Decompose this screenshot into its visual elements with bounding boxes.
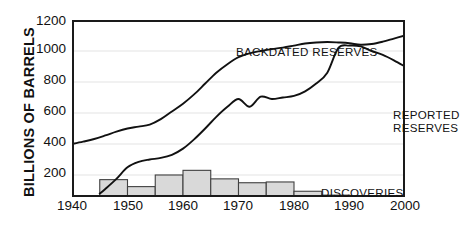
x-tick-1950: 1950 xyxy=(98,199,158,213)
y-tick-400: 400 xyxy=(26,135,66,149)
plot-area: BACKDATED RESERVES REPORTEDRESERVES DISC… xyxy=(72,20,405,197)
y-tick-1000: 1000 xyxy=(26,42,66,56)
x-tick-1990: 1990 xyxy=(319,199,379,213)
y-tick-800: 800 xyxy=(26,73,66,87)
x-axis-tick-labels: 1940 1950 1960 1970 1980 1990 2000 xyxy=(0,199,432,223)
x-tick-2000: 2000 xyxy=(375,199,435,213)
annotation-discoveries: DISCOVERIES xyxy=(321,186,404,199)
annotation-reported-line1: REPORTED xyxy=(393,108,460,121)
annotation-reported-line2: RESERVES xyxy=(393,121,458,134)
annotation-backdated-reserves: BACKDATED RESERVES xyxy=(236,45,378,58)
x-tick-1940: 1940 xyxy=(42,199,102,213)
annotation-reported-reserves: REPORTEDRESERVES xyxy=(393,108,460,134)
y-tick-600: 600 xyxy=(26,104,66,118)
x-tick-1960: 1960 xyxy=(153,199,213,213)
y-tick-200: 200 xyxy=(26,166,66,180)
x-tick-1980: 1980 xyxy=(264,199,324,213)
x-tick-1970: 1970 xyxy=(208,199,268,213)
y-tick-1200: 1200 xyxy=(26,14,66,28)
